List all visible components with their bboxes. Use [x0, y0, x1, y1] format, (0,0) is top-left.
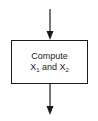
process-box: Compute X1 and X2 [11, 40, 88, 84]
outgoing-arrow [47, 84, 54, 115]
incoming-arrow [47, 9, 54, 40]
process-label-line1: Compute [31, 51, 68, 62]
process-label-line2: X1 and X2 [30, 62, 69, 73]
